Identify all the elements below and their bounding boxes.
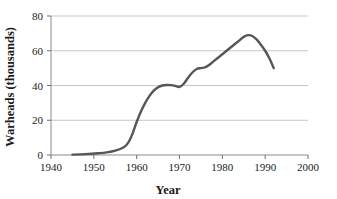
x-tick-label: 1980: [211, 161, 234, 173]
y-axis-title: Warheads (thousands): [3, 27, 17, 147]
y-tick-label: 20: [32, 114, 44, 126]
y-tick-label: 60: [32, 45, 44, 57]
gridlines: [51, 16, 308, 120]
line-chart-canvas: 1940195019601970198019902000 020406080 Y…: [0, 0, 337, 199]
y-tick-label: 0: [38, 149, 44, 161]
chart-figure: 1940195019601970198019902000 020406080 Y…: [0, 0, 337, 199]
x-tick-label: 1950: [83, 161, 106, 173]
y-tick-label: 80: [32, 10, 44, 22]
x-tick-label: 2000: [297, 161, 320, 173]
x-tick-label: 1940: [40, 161, 63, 173]
data-series: [72, 35, 273, 155]
x-axis-title: Year: [156, 183, 181, 197]
x-tick-label: 1970: [169, 161, 192, 173]
y-tick-label: 40: [32, 80, 44, 92]
series-line-warheads: [72, 35, 273, 155]
x-tick-label: 1990: [254, 161, 277, 173]
y-tick-labels: 020406080: [32, 10, 44, 161]
x-tick-labels: 1940195019601970198019902000: [40, 161, 320, 173]
x-tick-label: 1960: [126, 161, 149, 173]
